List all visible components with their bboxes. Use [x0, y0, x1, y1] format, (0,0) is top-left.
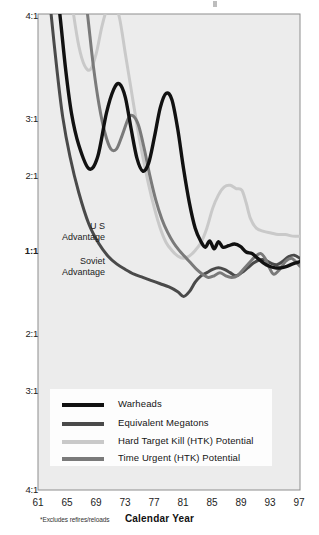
chart-container: 4:1 3:1 2:1 1:1 2:1 3:1 4:1 61 65 69 73 … — [0, 0, 319, 535]
legend-item-time-urgent: Time Urgent (HTK) Potential — [62, 451, 270, 467]
x-tick-65: 65 — [56, 497, 78, 508]
x-tick-81: 81 — [172, 497, 194, 508]
us-advantage-label: U S Advantage — [15, 221, 105, 243]
x-tick-97: 97 — [288, 497, 310, 508]
legend-item-equivalent-megatons: Equivalent Megatons — [62, 416, 270, 432]
soviet-advantage-label: Soviet Advantage — [15, 256, 105, 278]
soviet-advantage-line2: Advantage — [15, 267, 105, 278]
legend-label-warheads: Warheads — [118, 398, 162, 409]
y-tick-3to1-bottom: 3:1 — [4, 385, 38, 396]
y-tick-2to1-top: 2:1 — [4, 170, 38, 181]
legend-item-hard-target-kill: Hard Target Kill (HTK) Potential — [62, 434, 270, 450]
legend-label-equivalent-megatons: Equivalent Megatons — [118, 417, 209, 428]
x-tick-93: 93 — [259, 497, 281, 508]
x-tick-89: 89 — [230, 497, 252, 508]
legend-swatch-warheads — [62, 403, 104, 407]
soviet-advantage-line1: Soviet — [15, 256, 105, 267]
legend-item-warheads: Warheads — [62, 397, 270, 413]
legend-swatch-hard-target-kill — [62, 440, 104, 444]
chart-footnote: *Excludes refires/reloads — [40, 516, 109, 523]
x-tick-69: 69 — [85, 497, 107, 508]
x-tick-85: 85 — [201, 497, 223, 508]
legend-label-time-urgent: Time Urgent (HTK) Potential — [118, 452, 240, 463]
y-tick-4to1-top: 4:1 — [4, 10, 38, 21]
legend-label-hard-target-kill: Hard Target Kill (HTK) Potential — [118, 435, 254, 446]
us-advantage-line2: Advantage — [15, 232, 105, 243]
x-tick-61: 61 — [27, 497, 49, 508]
legend-swatch-equivalent-megatons — [62, 422, 104, 426]
y-tick-2to1-bottom: 2:1 — [4, 328, 38, 339]
x-tick-73: 73 — [114, 497, 136, 508]
y-tick-3to1-top: 3:1 — [4, 113, 38, 124]
y-tick-4to1-bottom: 4:1 — [4, 484, 38, 495]
us-advantage-line1: U S — [15, 221, 105, 232]
legend-swatch-time-urgent — [62, 457, 104, 461]
chart-legend: Warheads Equivalent Megatons Hard Target… — [50, 389, 272, 466]
x-tick-77: 77 — [143, 497, 165, 508]
y-tick-1to1: 1:1 — [4, 245, 38, 256]
